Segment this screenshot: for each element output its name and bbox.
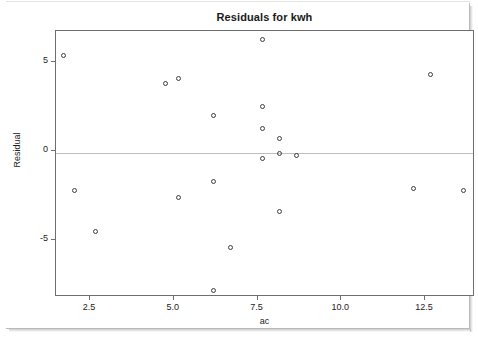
scatter-point [411, 186, 416, 191]
scatter-point [277, 136, 282, 141]
x-axis-title: ac [55, 316, 474, 326]
page-top-hairline [6, 1, 470, 2]
x-axis-tick [340, 296, 341, 300]
y-axis-tick-label: 0 [22, 144, 48, 154]
x-axis-tick-label: 2.5 [69, 302, 109, 312]
scatter-point [211, 288, 216, 293]
scatter-point [461, 188, 466, 193]
x-axis-tick-label: 7.5 [237, 302, 277, 312]
x-axis-tick [424, 296, 425, 300]
scatter-point [228, 245, 233, 250]
plot-area [55, 30, 474, 296]
scatter-point [211, 113, 216, 118]
scatter-point [277, 151, 282, 156]
scatter-point [428, 72, 433, 77]
scatter-point [260, 37, 265, 42]
y-axis-title: Residual [12, 120, 22, 180]
scatter-point [277, 209, 282, 214]
scatter-point [211, 179, 216, 184]
scatter-point [260, 104, 265, 109]
scatter-point [61, 53, 66, 58]
y-axis-tick [51, 150, 55, 151]
x-axis-tick-label: 10.0 [320, 302, 360, 312]
x-axis-tick [89, 296, 90, 300]
y-axis-tick [51, 239, 55, 240]
scatter-point [176, 195, 181, 200]
card-shadow-bottom [9, 329, 471, 332]
chart-title: Residuals for kwh [55, 11, 474, 23]
chart-page: Residuals for kwh 2.55.07.510.012.5 50-5… [0, 0, 478, 342]
x-axis-tick-label: 12.5 [404, 302, 444, 312]
scatter-point [294, 153, 299, 158]
scatter-point [260, 126, 265, 131]
y-axis-tick [51, 61, 55, 62]
scatter-point [176, 76, 181, 81]
scatter-point [260, 156, 265, 161]
scatter-point [72, 188, 77, 193]
scatter-point [93, 229, 98, 234]
scatter-point [163, 81, 168, 86]
zero-reference-line [56, 153, 473, 154]
x-axis-tick [257, 296, 258, 300]
x-axis-tick-label: 5.0 [153, 302, 193, 312]
chart-card: Residuals for kwh 2.55.07.510.012.5 50-5… [6, 3, 470, 329]
y-axis-tick-label: 5 [22, 55, 48, 65]
y-axis-tick-label: -5 [22, 233, 48, 243]
x-axis-tick [173, 296, 174, 300]
